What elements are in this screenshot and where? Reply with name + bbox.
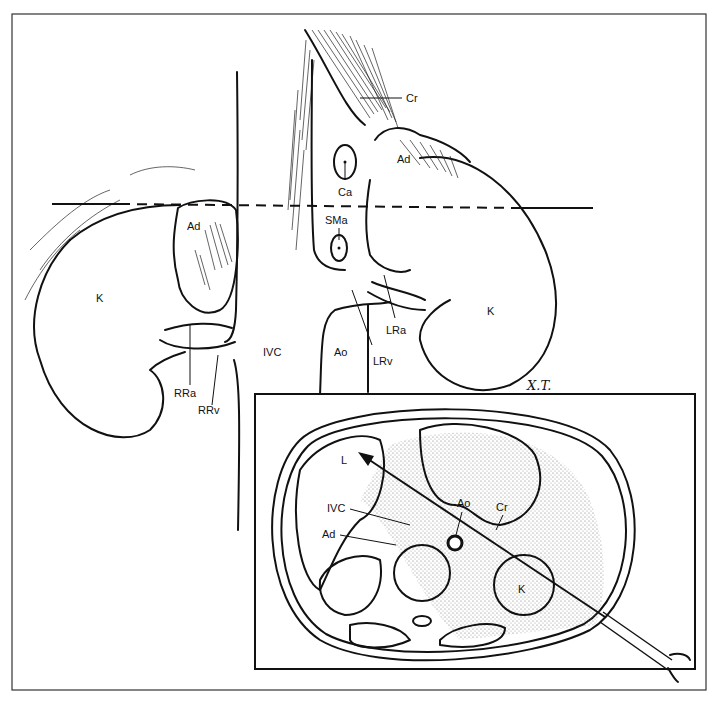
label-ca: Ca [338, 186, 353, 198]
inset-label-ivc: IVC [327, 502, 345, 514]
anatomical-figure: Cr Ad Ca SMa Ad K K LRa LRv Ao IVC RRa R… [0, 0, 725, 711]
artist-signature: X.T. [526, 378, 551, 393]
label-k-right: K [487, 305, 495, 317]
label-ao: Ao [334, 346, 347, 358]
label-ivc: IVC [263, 346, 281, 358]
label-rra: RRa [174, 387, 197, 399]
label-lrv: LRv [373, 355, 393, 367]
label-rrv: RRv [198, 404, 220, 416]
inset-label-ad: Ad [322, 528, 335, 540]
label-lra: LRa [386, 324, 407, 336]
inset-cross-section: L IVC Ad Ao Cr K [255, 394, 695, 682]
inset-label-cr: Cr [496, 501, 508, 513]
label-ad-left: Ad [187, 220, 200, 232]
label-ad-right: Ad [397, 153, 410, 165]
label-sma: SMa [325, 214, 349, 226]
label-cr: Cr [406, 92, 418, 104]
label-k-left: K [96, 292, 104, 304]
inset-label-l: L [341, 454, 347, 466]
inset-label-k: K [518, 583, 526, 595]
inset-label-ao: Ao [457, 497, 470, 509]
